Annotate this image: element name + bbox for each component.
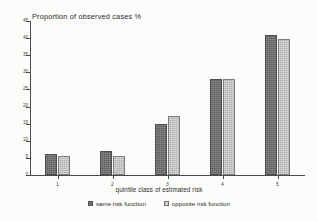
legend-entry: same risk function	[88, 200, 146, 207]
y-tick-label: 5	[25, 154, 28, 159]
bar-same-risk-function-q4	[210, 79, 223, 176]
plot-area: 051015202530354045 12345	[30, 21, 305, 176]
x-tick-mark	[278, 176, 279, 179]
x-tick-mark	[113, 176, 114, 179]
bar-same-risk-function-q2	[100, 151, 113, 175]
y-tick-label: 15	[23, 120, 28, 125]
legend-entry: opposite risk function	[164, 200, 230, 207]
chart-legend: same risk functionopposite risk function	[0, 200, 318, 207]
y-tick-label: 0	[25, 172, 28, 177]
bar-opposite-risk-function-q4	[223, 79, 236, 176]
bar-same-risk-function-q5	[265, 35, 278, 175]
y-tick-label: 20	[23, 103, 28, 108]
dark-gray-swatch	[88, 201, 93, 206]
bar-opposite-risk-function-q3	[168, 116, 181, 175]
y-tick-label: 45	[23, 18, 28, 23]
y-axis-line	[30, 21, 31, 176]
bar-opposite-risk-function-q1	[58, 156, 71, 175]
legend-label: same risk function	[96, 200, 146, 207]
x-tick-mark	[58, 176, 59, 179]
y-tick-label: 25	[23, 86, 28, 91]
y-tick-label: 30	[23, 69, 28, 74]
x-tick-mark	[223, 176, 224, 179]
x-tick-mark	[168, 176, 169, 179]
bar-opposite-risk-function-q2	[113, 156, 126, 176]
y-tick-label: 35	[23, 52, 28, 57]
y-tick-label: 40	[23, 35, 28, 40]
bar-chart-figure: Proportion of observed cases % 051015202…	[0, 0, 318, 221]
light-gray-swatch	[164, 201, 169, 206]
bar-opposite-risk-function-q5	[278, 39, 291, 175]
bar-same-risk-function-q3	[155, 124, 168, 175]
chart-title: Proportion of observed cases %	[32, 12, 141, 21]
legend-label: opposite risk function	[172, 200, 230, 207]
x-axis-title: quintile class of estimated risk	[0, 186, 318, 193]
bar-same-risk-function-q1	[45, 154, 58, 175]
y-tick-label: 10	[23, 137, 28, 142]
